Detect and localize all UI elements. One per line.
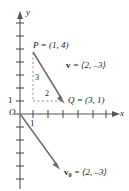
diagram-canvas	[0, 0, 129, 191]
x-axis-arrowhead	[112, 111, 120, 117]
point-q-label: Q = (3, 1)	[68, 96, 105, 105]
vector-v0-label: v0 = ⟨2, –3⟩	[64, 168, 107, 178]
vector-v-arrowhead	[57, 96, 65, 104]
x-axis-label: x	[120, 109, 124, 118]
y-axis-tick-label-1: 1	[8, 96, 13, 105]
vector-diagram-figure: y x O 1 1 P = (1, 4) Q = (3, 1) 3 2 v = …	[0, 0, 129, 191]
x-axis-tick-label-1: 1	[30, 119, 35, 128]
leg-vertical-label: 3	[35, 74, 39, 82]
leg-horizontal-label: 2	[45, 90, 49, 98]
vector-v0-components: = ⟨2, –3⟩	[72, 167, 108, 177]
y-axis-label: y	[26, 8, 30, 17]
origin-label: O	[9, 108, 16, 117]
point-p-label: P = (1, 4)	[33, 41, 68, 50]
vector-v-label: v = ⟨2, –3⟩	[66, 61, 106, 70]
vector-v0-shaft	[21, 115, 58, 166]
vector-v-components: = ⟨2, –3⟩	[71, 60, 107, 70]
y-axis-arrowhead	[17, 11, 23, 19]
vector-v0-arrowhead	[52, 162, 60, 170]
